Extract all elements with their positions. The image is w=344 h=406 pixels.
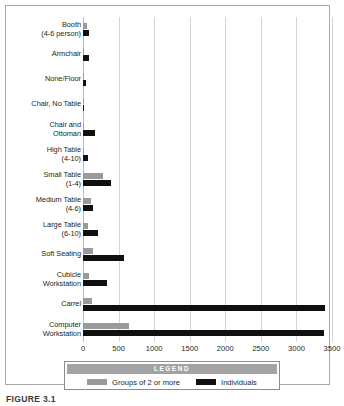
bar-row [83, 142, 332, 167]
x-tick-label: 500 [112, 344, 125, 353]
bar-individuals [83, 255, 124, 261]
category-label: Medium Table(4-6) [12, 196, 81, 213]
x-tick-label: 3000 [288, 344, 305, 353]
bar-individuals [83, 55, 89, 61]
bar-groups [83, 223, 88, 229]
bar-groups [83, 173, 103, 179]
bar-rows [83, 17, 332, 342]
bar-row [83, 217, 332, 242]
bar-groups [83, 323, 129, 329]
category-label: CubicleWorkstation [12, 271, 81, 288]
bar-row [83, 67, 332, 92]
category-label: Small Table(1-4) [12, 171, 81, 188]
bar-individuals [83, 330, 324, 336]
bar-individuals [83, 230, 98, 236]
bar-row [83, 117, 332, 142]
bar-groups [83, 198, 91, 204]
figure-root: Booth(4-6 person)ArmchairNone/FloorChair… [0, 0, 344, 406]
x-tick-label: 0 [81, 344, 85, 353]
bar-individuals [83, 280, 107, 286]
x-axis: 0500100015002000250030003500 [83, 344, 332, 356]
bar-individuals [83, 105, 84, 111]
bar-row [83, 267, 332, 292]
category-label: Chair, No Table [12, 100, 81, 108]
legend-swatch-individuals [196, 379, 216, 385]
bar-individuals [83, 205, 93, 211]
category-label: None/Floor [12, 75, 81, 83]
category-label: ComputerWorkstation [12, 321, 81, 338]
category-label: Armchair [12, 50, 81, 58]
x-tick-label: 1000 [146, 344, 163, 353]
bar-row [83, 242, 332, 267]
bar-row [83, 167, 332, 192]
bar-groups [83, 23, 87, 29]
category-label: Soft Seating [12, 250, 81, 258]
plot-area [83, 17, 332, 342]
legend: LEGEND Groups of 2 or moreIndividuals [64, 361, 280, 390]
x-tick-label: 2000 [217, 344, 234, 353]
bar-individuals [83, 180, 111, 186]
x-tick-label: 1500 [181, 344, 198, 353]
bar-individuals [83, 30, 89, 36]
bar-individuals [83, 155, 88, 161]
legend-label-individuals: Individuals [221, 378, 257, 387]
bar-row [83, 292, 332, 317]
category-label: Booth(4-6 person) [12, 21, 81, 38]
category-label: High Table(4-10) [12, 146, 81, 163]
bar-groups [83, 123, 84, 129]
bar-individuals [83, 305, 325, 311]
bar-row [83, 92, 332, 117]
bar-individuals [83, 130, 95, 136]
legend-swatch-groups [87, 379, 107, 385]
bar-groups [83, 48, 84, 54]
bar-individuals [83, 80, 86, 86]
x-tick-label: 2500 [252, 344, 269, 353]
chart-frame: Booth(4-6 person)ArmchairNone/FloorChair… [5, 5, 330, 385]
bar-row [83, 42, 332, 67]
bar-groups [83, 273, 89, 279]
legend-entry-individuals: Individuals [196, 378, 257, 387]
legend-entry-groups: Groups of 2 or more [87, 378, 180, 387]
bar-groups [83, 248, 93, 254]
legend-entries: Groups of 2 or moreIndividuals [67, 376, 277, 388]
bar-groups [83, 298, 92, 304]
x-tick-label: 3500 [324, 344, 341, 353]
bar-row [83, 192, 332, 217]
bar-groups [83, 148, 84, 154]
bar-row [83, 317, 332, 342]
category-label: Carrel [12, 300, 81, 308]
bar-groups [83, 98, 84, 104]
bar-row [83, 17, 332, 42]
legend-title: LEGEND [154, 364, 190, 374]
category-axis-labels: Booth(4-6 person)ArmchairNone/FloorChair… [12, 17, 81, 342]
category-label: Chair andOttoman [12, 121, 81, 138]
gridline-3500 [332, 17, 333, 342]
legend-title-bar: LEGEND [67, 364, 277, 374]
figure-caption: FIGURE 3.1 [6, 394, 56, 404]
bar-groups [83, 73, 84, 79]
category-label: Large Table(6-10) [12, 221, 81, 238]
legend-label-groups: Groups of 2 or more [112, 378, 180, 387]
